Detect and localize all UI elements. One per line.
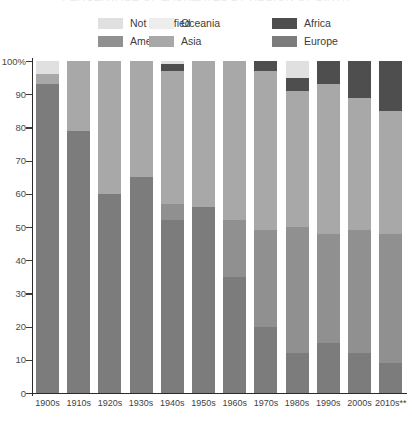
bar-1950s[interactable] — [192, 61, 215, 393]
bar-segment-europe — [98, 194, 121, 393]
bar-segment-europe — [161, 220, 184, 393]
legend-swatch-icon — [98, 18, 123, 29]
bar-1910s[interactable] — [67, 61, 90, 393]
bar-segment-europe — [348, 353, 371, 393]
legend-item-africa[interactable]: Africa — [266, 16, 412, 31]
legend-item-not-specified[interactable]: Not specified — [0, 16, 143, 31]
bar-segment-europe — [36, 84, 59, 393]
bar-segment-asia — [36, 74, 59, 84]
plot-area — [33, 61, 407, 393]
legend-swatch-icon — [272, 18, 297, 29]
legend-item-americas[interactable]: Americas — [0, 34, 143, 49]
bar-1960s[interactable] — [223, 61, 246, 393]
bar-1970s[interactable] — [254, 61, 277, 393]
bar-segment-asia — [379, 111, 402, 234]
chart-legend: Not specifiedOceaniaAfrica AmericasAsiaE… — [0, 15, 412, 51]
x-axis-labels: 1900s1910s1920s1930s1940s1950s1960s1970s… — [33, 396, 407, 412]
legend-item-europe[interactable]: Europe — [266, 34, 412, 49]
bar-segment-europe — [254, 327, 277, 393]
bar-segment-americas — [379, 234, 402, 363]
bar-segment-europe — [223, 277, 246, 393]
legend-row-2: AmericasAsiaEurope — [0, 34, 412, 49]
legend-label: Oceania — [181, 18, 220, 29]
bar-segment-africa — [379, 61, 402, 111]
bar-segment-europe — [192, 207, 215, 393]
bar-segment-africa — [286, 78, 309, 91]
legend-swatch-icon — [149, 36, 174, 47]
bar-segment-europe — [286, 353, 309, 393]
y-axis-tick-label: 30 — [0, 289, 26, 298]
bar-segment-asia — [130, 61, 153, 177]
y-axis-tick-label: 70 — [0, 156, 26, 165]
bar-segment-africa — [254, 61, 277, 71]
legend-label: Asia — [181, 36, 201, 47]
bar-group — [33, 61, 407, 393]
bar-segment-asia — [161, 71, 184, 204]
bar-segment-europe — [67, 131, 90, 393]
bar-1930s[interactable] — [130, 61, 153, 393]
legend-item-oceania[interactable]: Oceania — [143, 16, 266, 31]
bar-segment-asia — [254, 71, 277, 230]
y-axis-tick-label: 10 — [0, 355, 26, 364]
bar-segment-europe — [130, 177, 153, 393]
legend-swatch-icon — [272, 36, 297, 47]
y-axis-labels: 0102030405060708090100% — [0, 55, 26, 403]
chart-container: PERCENTAGE OF LAUREATES BY REGION OF BIR… — [0, 0, 412, 431]
legend-item-asia[interactable]: Asia — [143, 34, 266, 49]
bar-segment-asia — [67, 61, 90, 131]
bar-segment-africa — [317, 61, 340, 84]
bar-segment-americas — [254, 230, 277, 326]
chart-title-clipped: PERCENTAGE OF LAUREATES BY REGION OF BIR… — [0, 0, 412, 13]
bar-1940s[interactable] — [161, 61, 184, 393]
bar-segment-americas — [317, 234, 340, 344]
bar-segment-not-specified — [161, 61, 184, 64]
bar-segment-asia — [98, 61, 121, 194]
y-axis-tick-label: 80 — [0, 123, 26, 132]
x-axis-tick-label: 2010s** — [371, 398, 411, 408]
bar-segment-europe — [317, 343, 340, 393]
legend-swatch-icon — [149, 18, 174, 29]
y-axis-tick-label: 20 — [0, 322, 26, 331]
bar-1990s[interactable] — [317, 61, 340, 393]
y-axis-tick-label: 100% — [0, 57, 26, 66]
bar-segment-americas — [223, 220, 246, 276]
bar-segment-asia — [286, 91, 309, 227]
page-title: PERCENTAGE OF LAUREATES BY REGION OF BIR… — [0, 0, 412, 3]
bar-2010s[interactable] — [379, 61, 402, 393]
bar-segment-africa — [348, 61, 371, 98]
y-axis-tick-label: 60 — [0, 189, 26, 198]
bar-segment-asia — [348, 98, 371, 231]
bar-1920s[interactable] — [98, 61, 121, 393]
y-axis-tick-label: 0 — [0, 389, 26, 398]
bar-segment-americas — [161, 204, 184, 221]
bar-segment-asia — [223, 61, 246, 220]
legend-label: Europe — [304, 36, 338, 47]
bar-segment-americas — [348, 230, 371, 353]
bar-segment-asia — [192, 61, 215, 207]
bar-segment-africa — [161, 64, 184, 71]
y-axis-tick-label: 90 — [0, 90, 26, 99]
bar-1980s[interactable] — [286, 61, 309, 393]
bar-1900s[interactable] — [36, 61, 59, 393]
bar-segment-americas — [286, 227, 309, 353]
y-axis-tick-label: 50 — [0, 223, 26, 232]
bar-segment-not-specified — [286, 61, 309, 78]
legend-row-1: Not specifiedOceaniaAfrica — [0, 16, 412, 31]
legend-label: Africa — [304, 18, 331, 29]
y-axis-tick-label: 40 — [0, 256, 26, 265]
bar-segment-not-specified — [36, 61, 59, 74]
legend-swatch-icon — [98, 36, 123, 47]
bar-2000s[interactable] — [348, 61, 371, 393]
bar-segment-europe — [379, 363, 402, 393]
bar-segment-asia — [317, 84, 340, 233]
